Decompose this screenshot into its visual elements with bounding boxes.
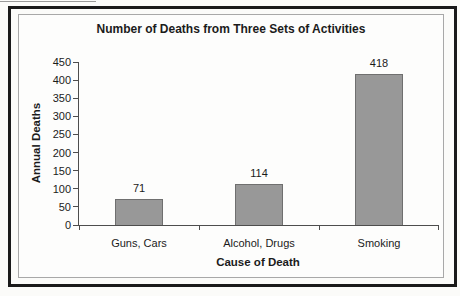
plot-area: 05010015020025030035040045071Guns, Cars1… [78, 62, 439, 226]
y-axis-tick [73, 206, 78, 207]
x-category-label: Alcohol, Drugs [199, 237, 319, 249]
bar-value-label: 71 [109, 182, 169, 194]
y-axis-tick-label: 300 [31, 110, 71, 122]
y-axis-tick [73, 170, 78, 171]
y-axis-tick [73, 98, 78, 99]
bar-guns-cars [115, 199, 163, 225]
y-axis-tick [73, 225, 78, 226]
x-category-label: Guns, Cars [79, 237, 199, 249]
y-axis-tick-label: 0 [31, 219, 71, 231]
bar-alcohol-drugs [235, 184, 283, 225]
y-axis-tick-label: 250 [31, 128, 71, 140]
x-axis-tick [199, 225, 200, 230]
bar-value-label: 418 [349, 57, 409, 69]
y-axis-tick [73, 188, 78, 189]
y-axis-tick [73, 80, 78, 81]
x-axis-tick [79, 225, 80, 230]
y-axis-tick [73, 62, 78, 63]
chart-title: Number of Deaths from Three Sets of Acti… [19, 22, 443, 36]
x-axis-tick [319, 225, 320, 230]
scan-artifact-line [0, 1, 96, 2]
y-axis-tick [73, 134, 78, 135]
x-axis-title: Cause of Death [78, 256, 438, 268]
bar-smoking [355, 74, 403, 225]
y-axis-tick-label: 350 [31, 92, 71, 104]
x-category-label: Smoking [319, 237, 439, 249]
y-axis-tick [73, 116, 78, 117]
x-axis-tick [438, 225, 439, 230]
y-axis-tick-label: 450 [31, 56, 71, 68]
y-axis-tick-label: 150 [31, 165, 71, 177]
y-axis-tick-label: 400 [31, 74, 71, 86]
y-axis-tick-label: 100 [31, 183, 71, 195]
y-axis-tick-label: 200 [31, 147, 71, 159]
y-axis-tick-label: 50 [31, 201, 71, 213]
scanned-chart-page: Number of Deaths from Three Sets of Acti… [0, 0, 460, 296]
bar-value-label: 114 [229, 167, 289, 179]
y-axis-tick [73, 152, 78, 153]
